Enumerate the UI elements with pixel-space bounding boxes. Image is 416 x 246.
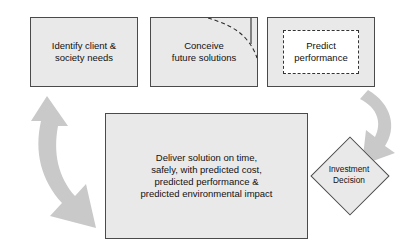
node-deliver-label: Deliver solution on time, safely, with p… [136, 152, 276, 201]
node-conceive-future-solutions[interactable]: Conceive future solutions [150, 17, 258, 87]
node-predict-performance[interactable]: Predict performance [267, 17, 375, 87]
dashed-inner-box: Predict performance [283, 30, 359, 74]
node-deliver-solution[interactable]: Deliver solution on time, safely, with p… [105, 113, 308, 239]
node-predict-label: Predict performance [290, 40, 351, 64]
node-identify-label: Identify client & society needs [48, 40, 120, 64]
node-identify-client-society-needs[interactable]: Identify client & society needs [30, 17, 138, 87]
clipped-dashed-curve-icon [151, 18, 258, 87]
node-investment-decision[interactable]: Investment Decision [311, 137, 387, 213]
left-curved-arrow [31, 96, 96, 228]
node-investment-label: Investment Decision [311, 137, 387, 213]
diagram-canvas: Identify client & society needs Conceive… [0, 0, 416, 246]
